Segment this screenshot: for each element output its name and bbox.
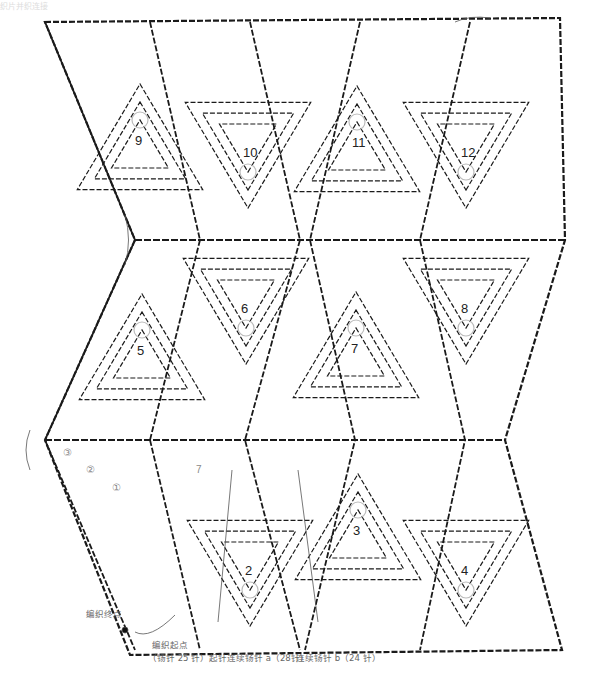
start-chain-label: （钖针 25 针）起针 bbox=[148, 651, 227, 663]
motif-number-4: 4 bbox=[461, 563, 468, 578]
motif-number-6: 6 bbox=[241, 301, 248, 316]
end-point-label: 编织终点 bbox=[86, 607, 122, 619]
motif-number-7: 7 bbox=[351, 341, 358, 356]
motif-centers bbox=[132, 112, 474, 598]
row-dividers bbox=[45, 240, 565, 440]
motif-number-12: 12 bbox=[461, 145, 475, 160]
crochet-diagram bbox=[0, 0, 600, 697]
motif-number-3: 3 bbox=[353, 523, 360, 538]
round-marker: ① bbox=[112, 482, 121, 493]
chain-b-label: 连续钖针 b（24 针） bbox=[296, 651, 381, 663]
motif-number-5: 5 bbox=[137, 343, 144, 358]
start-point-label: 编织起点 bbox=[152, 638, 188, 650]
round-marker: 7 bbox=[196, 464, 202, 475]
motif-number-11: 11 bbox=[352, 135, 366, 150]
motif-number-10: 10 bbox=[243, 145, 257, 160]
round-marker: ③ bbox=[63, 447, 72, 458]
motif-number-9: 9 bbox=[135, 133, 142, 148]
motif-number-2: 2 bbox=[245, 563, 252, 578]
round-marker: ② bbox=[86, 464, 95, 475]
motif-number-8: 8 bbox=[461, 301, 468, 316]
